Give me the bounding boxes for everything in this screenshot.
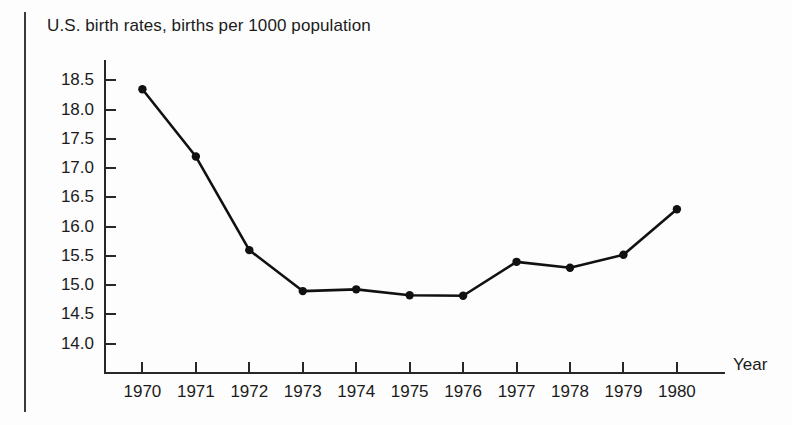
data-point-1972 (245, 246, 253, 254)
data-point-1975 (405, 291, 413, 299)
data-point-1978 (566, 263, 574, 271)
data-series-layer (0, 0, 792, 425)
data-point-1980 (673, 205, 681, 213)
data-point-1970 (138, 85, 146, 93)
data-point-markers (138, 85, 681, 300)
data-point-1976 (459, 292, 467, 300)
plot-area: 18.518.017.517.016.516.015.515.014.514.0… (0, 0, 792, 425)
data-point-1974 (352, 285, 360, 293)
data-point-1971 (192, 152, 200, 160)
chart-figure: U.S. birth rates, births per 1000 popula… (0, 0, 792, 425)
line-series-birth-rate (142, 89, 676, 296)
data-point-1973 (299, 287, 307, 295)
data-point-1977 (512, 258, 520, 266)
data-point-1979 (619, 251, 627, 259)
